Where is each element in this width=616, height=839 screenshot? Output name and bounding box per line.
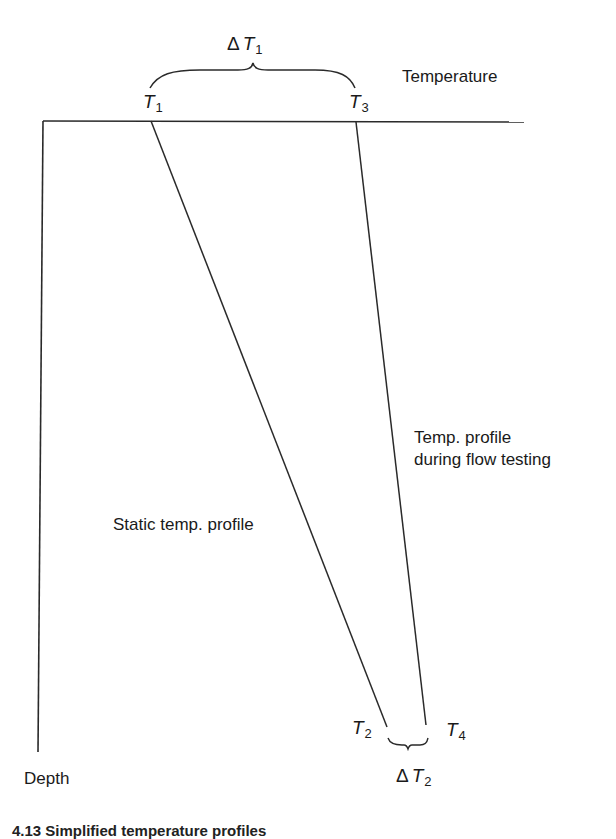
delta-t1-label: ΔT1	[227, 34, 263, 60]
t4-label: T4	[446, 720, 466, 746]
static-temp-profile-line	[151, 121, 387, 727]
temperature-axis	[43, 121, 524, 122]
t2-label: T2	[352, 718, 372, 744]
delta-t2-label: ΔT2	[396, 766, 432, 792]
depth-axis	[38, 121, 43, 752]
temperature-axis-label: Temperature	[402, 67, 497, 87]
delta-t2-brace	[388, 738, 428, 749]
figure-caption: 4.13 Simplified temperature profiles	[12, 822, 266, 839]
delta-t1-brace	[150, 63, 355, 88]
t1-label: T1	[143, 92, 163, 118]
static-profile-label: Static temp. profile	[113, 515, 254, 535]
t3-label: T3	[349, 92, 369, 118]
depth-axis-label: Depth	[24, 769, 69, 789]
flow-temp-profile-line	[356, 122, 426, 725]
flow-profile-label-line1: Temp. profile	[414, 428, 511, 448]
flow-profile-label-line2: during flow testing	[414, 450, 551, 470]
